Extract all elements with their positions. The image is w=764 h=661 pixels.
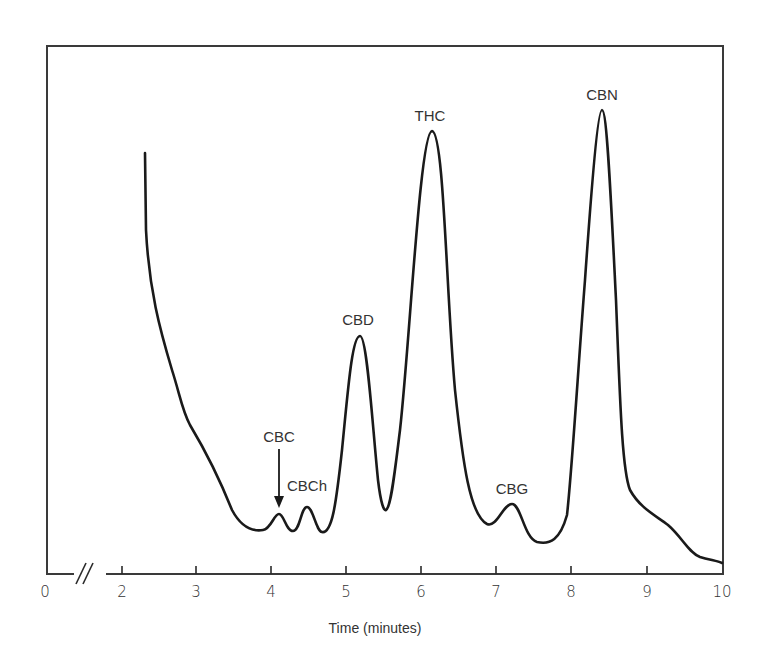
x-axis-ticks bbox=[122, 566, 647, 574]
tick-label-10: 10 bbox=[712, 583, 731, 601]
peak-label-cbg: CBG bbox=[496, 480, 529, 497]
tick-label-8: 8 bbox=[566, 583, 576, 601]
tick-label-6: 6 bbox=[416, 583, 426, 601]
peak-label-cbd: CBD bbox=[342, 311, 374, 328]
peak-label-cbn: CBN bbox=[586, 86, 618, 103]
chromatogram-trace bbox=[145, 110, 722, 563]
chromatogram-chart: 0 2 3 4 5 6 7 8 9 10 Time (minutes) CBC … bbox=[0, 0, 764, 661]
peak-label-thc: THC bbox=[415, 107, 446, 124]
tick-label-9: 9 bbox=[642, 583, 652, 601]
tick-label-0: 0 bbox=[40, 583, 50, 601]
axis-break-icon bbox=[74, 563, 106, 584]
x-axis-title: Time (minutes) bbox=[329, 620, 422, 636]
peak-label-cbc: CBC bbox=[263, 428, 295, 445]
peak-label-cbch: CBCh bbox=[287, 477, 327, 494]
tick-label-3: 3 bbox=[191, 583, 201, 601]
tick-label-5: 5 bbox=[341, 583, 351, 601]
tick-label-4: 4 bbox=[266, 583, 276, 601]
tick-label-7: 7 bbox=[491, 583, 501, 601]
x-axis-tick-labels: 0 2 3 4 5 6 7 8 9 10 bbox=[40, 583, 731, 601]
plot-frame bbox=[47, 46, 723, 574]
tick-label-2: 2 bbox=[117, 583, 127, 601]
cbc-arrow-icon bbox=[274, 449, 284, 508]
